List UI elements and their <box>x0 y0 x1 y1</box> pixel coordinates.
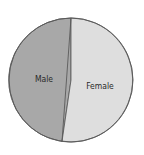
pie-chart: Male Female <box>0 0 144 155</box>
slice-female <box>62 18 133 142</box>
label-male: Male <box>35 74 53 84</box>
label-female: Female <box>86 81 114 91</box>
